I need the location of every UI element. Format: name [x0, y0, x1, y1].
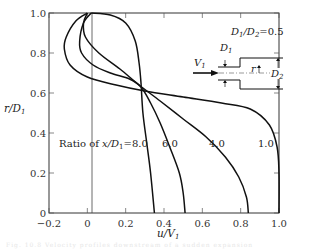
d1-label: D1 — [219, 42, 233, 55]
profile-curve-11.0 — [64, 13, 279, 213]
x-tick-label: 0.8 — [233, 218, 249, 229]
curves — [64, 13, 279, 213]
y-tick-label: 1.0 — [30, 8, 46, 19]
x-tick-label: 0.6 — [194, 218, 210, 229]
label-4: 4.0 — [209, 138, 225, 149]
y-tick-label: 0.6 — [30, 88, 46, 99]
x-tick-label: −0.2 — [37, 218, 61, 229]
profile-curve-18.0 — [91, 13, 154, 213]
r-label: r — [251, 63, 257, 74]
v1-label: V1 — [194, 57, 206, 70]
inset-diagram: D1/D2=0.5 D1 V1 r D2 — [193, 26, 286, 89]
ratio-label: Ratio of x/D1=8.0 — [59, 138, 148, 151]
velocity-profile-chart: −0.200.20.40.60.81.000.20.40.60.81.0 r/D… — [0, 0, 316, 252]
x-tick-label: 0 — [84, 218, 90, 229]
plot-frame — [49, 13, 279, 213]
label-6: 6.0 — [162, 138, 178, 149]
y-tick-label: 0.8 — [30, 48, 46, 59]
flow-arrow-icon — [211, 70, 219, 76]
figure-caption: Fig. 10.8 Velocity profiles downstream o… — [6, 241, 306, 249]
y-tick-label: 0.4 — [30, 128, 46, 139]
axis-ticks — [49, 13, 279, 213]
y-axis-label: r/D1 — [4, 102, 25, 116]
label-1: 1.0 — [258, 138, 274, 149]
diameter-ratio: D1/D2=0.5 — [230, 26, 284, 39]
x-axis-label: u/V1 — [157, 227, 179, 241]
y-tick-label: 0 — [40, 208, 46, 219]
y-tick-label: 0.2 — [30, 168, 46, 179]
x-tick-label: 0.2 — [118, 218, 134, 229]
x-tick-label: 1.0 — [271, 218, 287, 229]
profile-curve-16.0 — [80, 13, 186, 213]
